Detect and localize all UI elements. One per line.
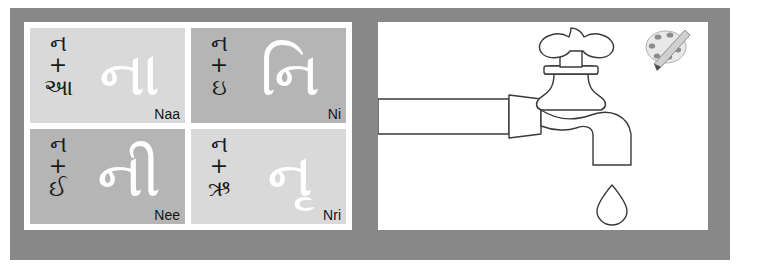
- illustration-panel: [378, 22, 708, 230]
- sponge-scrubber-icon: [646, 30, 690, 71]
- tap-body-shape: [537, 74, 606, 110]
- matra-cell-nee[interactable]: ન + ઈ ની Nee: [30, 129, 185, 224]
- romanization-label: Nee: [154, 207, 180, 223]
- romanization-label: Nri: [323, 207, 341, 223]
- matra-cell-ni[interactable]: ન + ઇ નિ Ni: [191, 28, 346, 123]
- romanization-label: Ni: [328, 106, 341, 122]
- vowel-glyph: ઇ: [199, 76, 239, 99]
- water-tap-illustration: [378, 22, 708, 230]
- matra-card-grid: ન + આ ના Naa ન + ઇ નિ Ni ન + ઈ ની Nee: [24, 22, 352, 230]
- vowel-glyph: આ: [38, 76, 78, 99]
- vowel-glyph: ઋ: [199, 177, 239, 200]
- romanization-label: Naa: [154, 106, 180, 122]
- spout-shape: [541, 110, 631, 165]
- water-drop-shape: [597, 185, 627, 225]
- matra-equation-naa: ન + આ: [38, 32, 78, 99]
- worksheet-page: ન + આ ના Naa ન + ઇ નિ Ni ન + ઈ ની Nee: [0, 0, 762, 272]
- coupling-shape: [509, 95, 541, 138]
- matra-equation-nri: ન + ઋ: [199, 133, 239, 200]
- matra-equation-ni: ન + ઇ: [199, 32, 239, 99]
- matra-cell-naa[interactable]: ન + આ ના Naa: [30, 28, 185, 123]
- vowel-glyph: ઈ: [38, 177, 78, 200]
- pipe-shape: [378, 99, 509, 134]
- matra-cell-nri[interactable]: ન + ઋ નૃ Nri: [191, 129, 346, 224]
- matra-equation-nee: ન + ઈ: [38, 133, 78, 200]
